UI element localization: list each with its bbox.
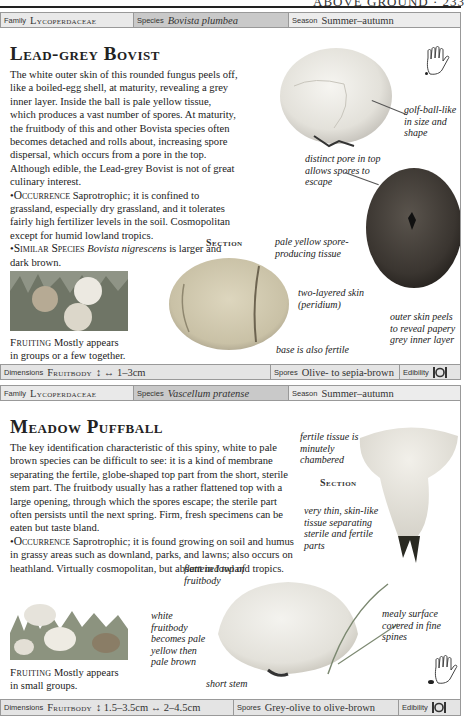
entry-1-description: The white outer skin of this rounded fun…	[10, 68, 238, 269]
family-label: Family	[4, 16, 26, 25]
season-cell: Season Summer–autumn	[289, 13, 460, 27]
fruiting-photo-1	[10, 271, 128, 331]
fruiting-caption-2: Fruiting Mostly appears in small groups.	[10, 666, 128, 692]
dimensions-value: ↕ ↔ 1–3cm	[96, 367, 146, 378]
season-label: Season	[292, 389, 317, 398]
species-cell: Species Vascellum pratense	[134, 386, 289, 400]
fruiting-caption-1: Fruiting Mostly appears in groups or a f…	[10, 336, 128, 362]
plate-icon	[432, 702, 446, 713]
species-value: Bovista plumbea	[168, 15, 238, 26]
description-text: The key identification characteristic of…	[10, 442, 288, 533]
spores-label: Spores	[274, 368, 298, 377]
fruiting-photo-2	[10, 603, 128, 660]
dimensions-value: ↕ 1.5–3.5cm ↔ 2–4.5cm	[96, 702, 200, 713]
similar-species-label: Similar Species	[14, 242, 85, 254]
annotation-mealy-surface: mealy surface covered in fine spines	[382, 608, 460, 643]
bovist-whole-photo	[274, 46, 400, 152]
family-cell: Family Lycoperdaceae	[1, 386, 134, 400]
entry-2-info-row: Family Lycoperdaceae Species Vascellum p…	[0, 385, 461, 401]
dimensions-label: Dimensions	[4, 703, 43, 712]
species-label: Species	[137, 389, 164, 398]
annotation-two-layered-skin: two-layered skin (peridium)	[298, 287, 368, 310]
hand-icon	[424, 46, 450, 76]
edibility-label: Edibility	[402, 703, 428, 712]
puffball-whole-photo	[208, 574, 408, 684]
edibility-cell: Edibility	[399, 700, 460, 715]
dimensions-label: Dimensions	[4, 368, 43, 377]
edibility-label: Edibility	[403, 368, 429, 377]
season-value: Summer–autumn	[321, 15, 393, 26]
occurrence-label: Occurrence	[14, 189, 70, 201]
fruiting-label: Fruiting	[10, 666, 51, 678]
similar-species-name: Bovista nigrescens	[87, 243, 166, 254]
spores-cell: Spores Grey-olive to olive-brown	[234, 700, 399, 715]
entry-2-description: The key identification characteristic of…	[10, 441, 300, 575]
page-title: ABOVE GROUND · 233	[313, 0, 465, 10]
species-value: Vascellum pratense	[168, 388, 249, 399]
spores-cell: Spores Olive- to sepia-brown	[271, 365, 400, 379]
season-value: Summer–autumn	[321, 388, 393, 399]
occurrence-label: Occurrence	[14, 535, 70, 547]
entry-2-footer: Dimensions Fruitbody ↕ 1.5–3.5cm ↔ 2–4.5…	[0, 699, 461, 716]
annotation-base-fertile: base is also fertile	[276, 344, 376, 356]
season-label: Season	[292, 16, 317, 25]
edibility-cell: Edibility	[400, 365, 460, 379]
spores-label: Spores	[237, 703, 261, 712]
dimensions-cell: Dimensions Fruitbody ↕ 1.5–3.5cm ↔ 2–4.5…	[1, 700, 234, 715]
species-label: Species	[137, 16, 164, 25]
family-value: Lycoperdaceae	[30, 15, 96, 26]
annotation-fertile-tissue: fertile tissue is minutely chambered	[300, 431, 370, 466]
header-rule	[0, 6, 461, 8]
family-label: Family	[4, 389, 26, 398]
hand-dot	[428, 680, 434, 684]
section-label: Section	[206, 237, 243, 248]
hand-dot	[425, 72, 428, 75]
bovist-dark-photo	[362, 168, 460, 296]
section-label: Section	[320, 477, 357, 488]
fruiting-label: Fruiting	[10, 336, 51, 348]
dimensions-part: Fruitbody	[47, 367, 92, 378]
annotation-outer-skin: outer skin peels to reveal papery grey i…	[390, 311, 456, 346]
species-cell: Species Bovista plumbea	[134, 13, 289, 27]
spores-value: Olive- to sepia-brown	[302, 367, 394, 378]
entry-1-footer: Dimensions Fruitbody ↕ ↔ 1–3cm Spores Ol…	[0, 364, 461, 380]
description-text: The white outer skin of this rounded fun…	[10, 69, 238, 187]
plate-icon	[433, 367, 447, 378]
annotation-golf-ball: golf-ball-like in size and shape	[404, 104, 464, 139]
spores-value: Grey-olive to olive-brown	[265, 702, 375, 713]
annotation-white-fruitbody: white fruitbody becomes pale yellow then…	[151, 610, 211, 668]
entry-2-title: Meadow Puffball	[10, 416, 163, 438]
season-cell: Season Summer–autumn	[289, 386, 460, 400]
annotation-thin-tissue: very thin, skin-like tissue separating s…	[304, 505, 384, 551]
entry-1-info-row: Family Lycoperdaceae Species Bovista plu…	[0, 12, 461, 28]
annotation-short-stem: short stem	[206, 678, 266, 690]
family-value: Lycoperdaceae	[30, 388, 96, 399]
entry-1-title: Lead-grey Bovist	[10, 43, 160, 65]
family-cell: Family Lycoperdaceae	[1, 13, 134, 27]
hand-icon	[432, 655, 458, 685]
bovist-section-photo	[164, 254, 294, 354]
dimensions-part: Fruitbody	[47, 702, 92, 713]
dimensions-cell: Dimensions Fruitbody ↕ ↔ 1–3cm	[1, 365, 271, 379]
